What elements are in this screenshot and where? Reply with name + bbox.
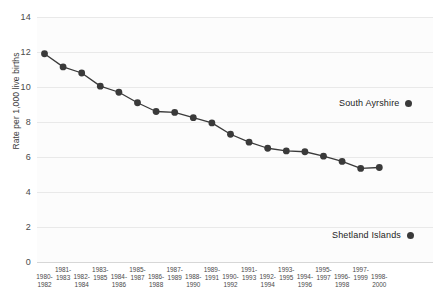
data-point [357,165,364,172]
legend-item-south-ayrshire: South Ayrshire [339,98,412,108]
data-point [171,109,178,116]
data-point [283,147,290,154]
data-point [209,119,216,126]
legend-item-shetland-islands: Shetland Islands [332,230,414,240]
series-line-south-ayrshire [45,54,380,169]
data-point [116,89,123,96]
data-point [153,108,160,115]
legend-label-shetland-islands: Shetland Islands [332,230,401,240]
data-point [302,148,309,155]
legend-dot-icon [405,100,412,107]
data-point [97,83,104,90]
chart-container: Rate per 1,000 live births 02468101214 1… [0,0,433,301]
data-point [339,158,346,165]
data-point [264,145,271,152]
data-point [190,114,197,121]
data-point [60,63,67,70]
legend-label-south-ayrshire: South Ayrshire [339,98,399,108]
legend-dot-icon [407,232,414,239]
data-point [320,153,327,160]
data-point [376,164,383,171]
data-point [41,50,48,57]
data-point [227,131,234,138]
data-series-layer [0,0,433,301]
data-point [78,70,85,77]
data-point [246,139,253,146]
data-point [134,99,141,106]
